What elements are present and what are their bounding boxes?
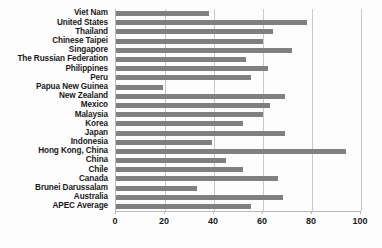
- bar: [116, 131, 285, 136]
- value-axis-line: [115, 211, 361, 212]
- bar: [116, 94, 285, 99]
- axis-tick-label: 60: [257, 216, 267, 226]
- axis-tick: [262, 211, 263, 214]
- bar: [116, 167, 243, 172]
- bar: [116, 11, 209, 16]
- axis-tick: [164, 211, 165, 214]
- bar-row: [116, 92, 361, 101]
- bar-row: [116, 46, 361, 55]
- bar: [116, 149, 346, 154]
- bar-row: [116, 18, 361, 27]
- bar-series: [116, 9, 361, 211]
- category-axis: Viet NamUnited StatesThailandChinese Tai…: [0, 9, 112, 211]
- bar: [116, 176, 278, 181]
- bar-row: [116, 128, 361, 137]
- axis-tick: [213, 211, 214, 214]
- category-label: The Russian Federation: [0, 55, 112, 64]
- category-label: Philippines: [0, 64, 112, 73]
- category-label: Chile: [0, 165, 112, 174]
- bar-row: [116, 55, 361, 64]
- bar-row: [116, 156, 361, 165]
- axis-tick: [115, 211, 116, 214]
- bar-row: [116, 27, 361, 36]
- axis-tick-label: 0: [112, 216, 117, 226]
- bar: [116, 158, 226, 163]
- bar: [116, 48, 292, 53]
- bar-row: [116, 202, 361, 211]
- bar: [116, 186, 197, 191]
- category-label: Malaysia: [0, 110, 112, 119]
- bar: [116, 20, 307, 25]
- bar: [116, 66, 268, 71]
- bar: [116, 195, 283, 200]
- bar-row: [116, 9, 361, 18]
- bar: [116, 204, 251, 209]
- bar: [116, 140, 212, 145]
- bar: [116, 103, 270, 108]
- bar: [116, 75, 251, 80]
- bar: [116, 85, 163, 90]
- bar: [116, 57, 246, 62]
- bar-row: [116, 101, 361, 110]
- bar-row: [116, 119, 361, 128]
- bar-row: [116, 64, 361, 73]
- plot-area: [115, 9, 361, 211]
- category-label: APEC Average: [0, 202, 112, 211]
- bar-row: [116, 174, 361, 183]
- bar-row: [116, 147, 361, 156]
- category-label: Mexico: [0, 101, 112, 110]
- bar: [116, 121, 243, 126]
- axis-tick: [311, 211, 312, 214]
- axis-tick-label: 40: [208, 216, 218, 226]
- bar-chart: Viet NamUnited StatesThailandChinese Tai…: [0, 0, 382, 248]
- gridline: [361, 9, 362, 211]
- axis-tick: [360, 211, 361, 214]
- bar-row: [116, 184, 361, 193]
- bar: [116, 112, 263, 117]
- axis-tick-label: 20: [159, 216, 169, 226]
- category-label: United States: [0, 18, 112, 27]
- bar-row: [116, 83, 361, 92]
- bar-row: [116, 138, 361, 147]
- bar-row: [116, 37, 361, 46]
- bar-row: [116, 73, 361, 82]
- bar-row: [116, 110, 361, 119]
- axis-tick-label: 80: [306, 216, 316, 226]
- bar: [116, 39, 263, 44]
- bar-row: [116, 165, 361, 174]
- axis-tick-label: 100: [352, 216, 367, 226]
- bar: [116, 29, 273, 34]
- bar-row: [116, 193, 361, 202]
- category-label: China: [0, 156, 112, 165]
- category-label: Viet Nam: [0, 9, 112, 18]
